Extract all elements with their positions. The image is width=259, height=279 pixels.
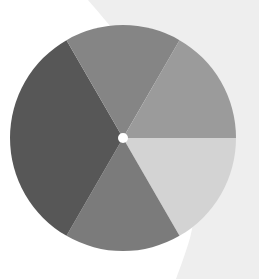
figure	[0, 0, 259, 279]
center-dot	[118, 133, 128, 143]
wheel-graphic	[0, 0, 259, 279]
